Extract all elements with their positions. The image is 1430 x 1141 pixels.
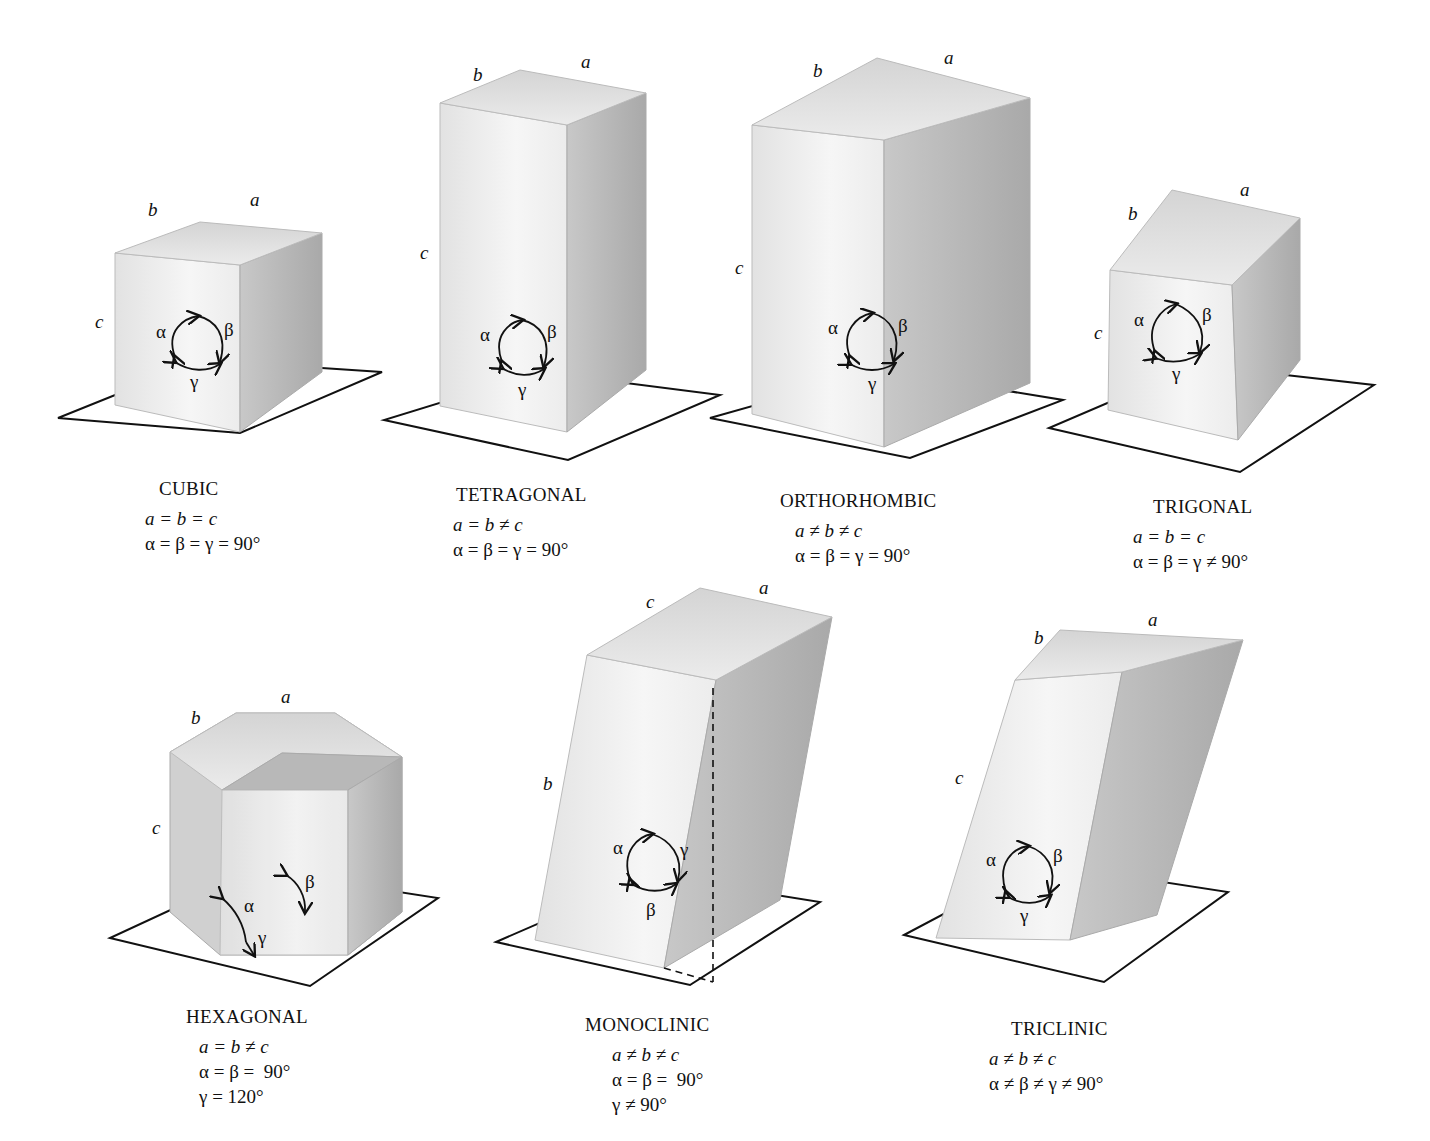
monoclinic-angle-alpha: α <box>613 838 623 857</box>
tetragonal-edge-b: b <box>473 65 483 84</box>
caption-monoclinic: MONOCLINIC a ≠ b ≠ c α = β = 90° γ ≠ 90° <box>585 1014 709 1117</box>
monoclinic-angle-beta: β <box>646 900 656 919</box>
trigonal-edge-b: b <box>1128 204 1138 223</box>
system-name: CUBIC <box>145 478 260 500</box>
orthorhombic-angle-alpha: α <box>828 318 838 337</box>
system-name: MONOCLINIC <box>585 1014 709 1036</box>
orthorhombic-angle-gamma: γ <box>868 374 876 393</box>
triclinic-edge-a: a <box>1148 610 1158 629</box>
angle-relation: α ≠ β ≠ γ ≠ 90° <box>989 1071 1108 1096</box>
trigonal-edge-a: a <box>1240 180 1250 199</box>
length-relation: a = b = c <box>1133 524 1253 549</box>
orthorhombic-edge-a: a <box>944 48 954 67</box>
system-name: HEXAGONAL <box>186 1006 308 1028</box>
trigonal-edge-c: c <box>1094 323 1102 342</box>
cubic-cell <box>58 222 382 433</box>
triclinic-edge-b: b <box>1034 628 1044 647</box>
system-name: ORTHORHOMBIC <box>780 490 937 512</box>
monoclinic-edge-a: a <box>759 578 769 597</box>
caption-orthorhombic: ORTHORHOMBIC a ≠ b ≠ c α = β = γ = 90° <box>780 490 937 568</box>
angle-relation: α = β = γ = 90° <box>145 531 260 556</box>
hexagonal-edge-b: b <box>191 708 201 727</box>
cubic-angle-beta: β <box>224 320 234 339</box>
hexagonal-angle-gamma: γ <box>258 928 266 947</box>
angle-relation: α = β = γ = 90° <box>780 543 937 568</box>
monoclinic-angle-gamma: γ <box>680 840 688 859</box>
angle-relation-2: γ ≠ 90° <box>585 1092 709 1117</box>
tetragonal-angle-beta: β <box>547 322 557 341</box>
hexagonal-angle-alpha: α <box>244 896 254 915</box>
length-relation: a = b ≠ c <box>453 512 587 537</box>
tetragonal-edge-a: a <box>581 52 591 71</box>
trigonal-angle-gamma: γ <box>1172 364 1180 383</box>
caption-triclinic: TRICLINIC a ≠ b ≠ c α ≠ β ≠ γ ≠ 90° <box>989 1018 1108 1096</box>
triclinic-angle-alpha: α <box>986 850 996 869</box>
length-relation: a ≠ b ≠ c <box>989 1046 1108 1071</box>
orthorhombic-edge-b: b <box>813 61 823 80</box>
system-name: TRIGONAL <box>1133 496 1253 518</box>
length-relation: a ≠ b ≠ c <box>780 518 937 543</box>
triclinic-edge-c: c <box>955 768 963 787</box>
monoclinic-edge-b: b <box>543 774 553 793</box>
angle-relation: α = β = γ ≠ 90° <box>1133 549 1253 574</box>
hexagonal-angle-beta: β <box>305 872 315 891</box>
triclinic-cell <box>904 630 1243 982</box>
trigonal-angle-alpha: α <box>1134 310 1144 329</box>
cubic-edge-b: b <box>148 200 158 219</box>
cubic-edge-c: c <box>95 312 103 331</box>
caption-trigonal: TRIGONAL a = b = c α = β = γ ≠ 90° <box>1133 496 1253 574</box>
tetragonal-angle-gamma: γ <box>518 380 526 399</box>
angle-relation: α = β = γ = 90° <box>453 537 587 562</box>
orthorhombic-cell <box>710 58 1063 458</box>
angle-relation: α = β = 90° <box>585 1067 709 1092</box>
cubic-angle-alpha: α <box>156 322 166 341</box>
hexagonal-edge-a: a <box>281 687 291 706</box>
system-name: TETRAGONAL <box>453 484 587 506</box>
triclinic-angle-beta: β <box>1053 846 1063 865</box>
length-relation: a = b ≠ c <box>186 1034 308 1059</box>
caption-hexagonal: HEXAGONAL a = b ≠ c α = β = 90° γ = 120° <box>186 1006 308 1109</box>
angle-relation-2: γ = 120° <box>186 1084 308 1109</box>
trigonal-angle-beta: β <box>1202 305 1212 324</box>
triclinic-angle-gamma: γ <box>1020 906 1028 925</box>
caption-tetragonal: TETRAGONAL a = b ≠ c α = β = γ = 90° <box>453 484 587 562</box>
hexagonal-edge-c: c <box>152 818 160 837</box>
length-relation: a = b = c <box>145 506 260 531</box>
system-name: TRICLINIC <box>989 1018 1108 1040</box>
tetragonal-edge-c: c <box>420 243 428 262</box>
tetragonal-cell <box>384 70 720 460</box>
cubic-angle-gamma: γ <box>190 372 198 391</box>
caption-cubic: CUBIC a = b = c α = β = γ = 90° <box>145 478 260 556</box>
length-relation: a ≠ b ≠ c <box>585 1042 709 1067</box>
cubic-edge-a: a <box>250 190 260 209</box>
hexagonal-cell <box>110 713 438 986</box>
orthorhombic-angle-beta: β <box>898 316 908 335</box>
angle-relation: α = β = 90° <box>186 1059 308 1084</box>
tetragonal-angle-alpha: α <box>480 325 490 344</box>
monoclinic-edge-c: c <box>646 592 654 611</box>
orthorhombic-edge-c: c <box>735 258 743 277</box>
